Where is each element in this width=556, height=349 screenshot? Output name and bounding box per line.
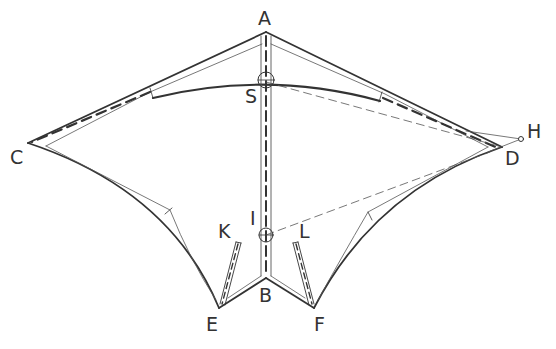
spar-left [32, 92, 150, 142]
label-f: F [314, 313, 325, 335]
trailing-edge-left [28, 143, 219, 308]
leading-edge-right [266, 32, 502, 147]
kite-diagram: A S C D H I K L B E F [0, 0, 556, 349]
kite-drawing: A S C D H I K L B E F [0, 0, 556, 349]
label-h: H [527, 120, 541, 142]
towing-point-h [519, 137, 524, 142]
leading-edge-left [28, 32, 266, 143]
label-e: E [206, 313, 218, 335]
standoff-l [293, 242, 314, 305]
label-i: I [250, 207, 256, 229]
bridle-line-upper [266, 82, 502, 147]
tail-edge-right-inner [271, 276, 305, 298]
trailing-edge-right [314, 147, 502, 308]
sleeve-left [46, 44, 262, 146]
trailing-edge-left-inner [46, 146, 216, 300]
label-a: A [258, 7, 271, 29]
label-d: D [505, 147, 520, 169]
tail-edge-left-inner [228, 276, 261, 298]
label-k: K [218, 220, 231, 242]
label-s: S [245, 85, 257, 107]
sleeve-right [271, 44, 488, 147]
label-b: B [259, 284, 272, 306]
label-c: C [10, 146, 23, 168]
trailing-edge-right-inner [318, 147, 488, 300]
label-l: L [299, 220, 310, 242]
